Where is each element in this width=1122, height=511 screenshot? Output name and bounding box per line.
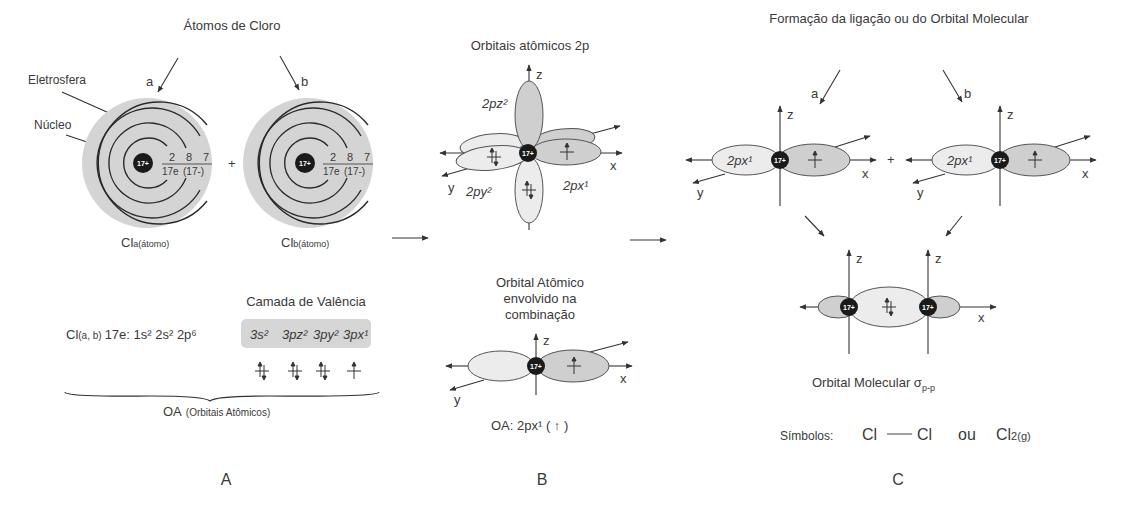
nucleus-charge: 17+ <box>843 304 855 311</box>
spin-up-icon <box>347 362 361 379</box>
shell-1-count: 2 <box>330 151 336 163</box>
symbol-cl2-gas: Cl2(g) <box>996 426 1031 443</box>
orbital-label: 2px¹ <box>946 153 973 168</box>
arrow-to-atom-b <box>280 56 299 90</box>
nucleus-charge: 17+ <box>774 157 786 164</box>
y-axis-label: y <box>697 185 704 200</box>
electrons-total: 17e <box>323 166 340 177</box>
shell-2-count: 8 <box>347 151 353 163</box>
atom-b-orbital: z x y 17+ 2px¹ <box>906 106 1096 206</box>
symbols-label: Símbolos: <box>780 429 833 443</box>
atoms-title: Átomos de Cloro <box>184 18 281 33</box>
electrons-charge: (17-) <box>344 166 365 177</box>
symbol-or: ou <box>958 426 976 443</box>
orbital-label: 2px¹ <box>726 153 753 168</box>
px-label: 2px¹ <box>562 178 589 193</box>
y-axis-label: y <box>448 180 455 195</box>
atom-a-letter: a <box>811 86 819 101</box>
cl-a-label: Cla(átomo) <box>121 235 169 250</box>
valence-3px: 3px¹ <box>343 327 369 342</box>
spin-pair-icon <box>255 362 269 380</box>
x-axis-label: x <box>1082 166 1089 181</box>
panel-label-a: A <box>221 471 232 488</box>
z-axis-label: z <box>856 251 863 266</box>
y-axis <box>442 168 470 176</box>
shell-3-count: 7 <box>364 151 370 163</box>
z-axis-label: z <box>1007 107 1014 122</box>
panel-b-title: Orbitais atômicos 2p <box>471 38 590 53</box>
x-axis-label: x <box>610 158 617 173</box>
atom-b-letter: b <box>964 86 971 101</box>
py-label: 2py² <box>465 184 492 199</box>
atom-a-orbital: z x y 17+ 2px¹ <box>686 106 876 206</box>
nucleus-charge: 17+ <box>530 363 542 370</box>
atom-b-letter: b <box>301 74 308 89</box>
panel-label-b: B <box>537 471 548 488</box>
valence-3pz: 3pz² <box>282 327 308 342</box>
valence-3s: 3s² <box>250 327 269 342</box>
y-axis-label: y <box>917 185 924 200</box>
molecular-orbital: z z x 17+ 17+ <box>800 250 996 354</box>
symbol-cl-1: Cl <box>862 426 877 443</box>
panel-b: Orbitais atômicos 2p z x y 17+ 2pz² 2py²… <box>440 38 632 488</box>
molecular-orbital-label: Orbital Molecular σp-p <box>812 375 935 393</box>
panel-label-c: C <box>892 471 904 488</box>
involved-orbital-line-2: envolvido na <box>504 291 578 306</box>
x-axis-label: x <box>620 371 627 386</box>
spin-pair-icon <box>288 362 302 380</box>
spin-pair-icon <box>316 362 330 380</box>
shell-3-count: 7 <box>203 151 209 163</box>
eletrosfera-label: Eletrosfera <box>28 73 86 87</box>
chlorine-atom-a: 17+ 2 8 7 17e (17-) <box>82 98 212 228</box>
z-axis-label: z <box>935 251 942 266</box>
nucleus-charge: 17+ <box>522 150 534 157</box>
nucleus-charge: 17+ <box>922 304 934 311</box>
z-axis-label: z <box>543 333 550 348</box>
chlorine-atom-b: 17+ 2 8 7 17e (17-) <box>243 98 373 228</box>
panel-c: Formação da ligação ou do Orbital Molecu… <box>686 11 1096 488</box>
electrons-charge: (17-) <box>183 166 204 177</box>
z-axis-label: z <box>787 107 794 122</box>
plus-sign: + <box>228 156 236 171</box>
px-lobe-left <box>468 351 534 381</box>
nucleus-charge: 17+ <box>994 157 1006 164</box>
panel-a: Átomos de Cloro a b Eletrosfera Núcleo 1… <box>28 18 379 488</box>
involved-orbital-line-3: combinação <box>505 307 575 322</box>
shell-1-count: 2 <box>169 151 175 163</box>
cl-b-label: Clb(átomo) <box>281 235 329 250</box>
chlorine-bonding-diagram: Átomos de Cloro a b Eletrosfera Núcleo 1… <box>0 0 1122 511</box>
panel-c-title: Formação da ligação ou do Orbital Molecu… <box>769 11 1029 26</box>
atom-a-letter: a <box>146 74 154 89</box>
involved-orbital-line-1: Orbital Atômico <box>496 275 584 290</box>
electron-configuration: Cl(a, b)17e: 1s² 2s² 2p⁶ <box>66 327 197 342</box>
spin-diagram <box>255 362 361 380</box>
plus-sign: + <box>887 152 895 167</box>
valence-3py: 3py² <box>313 327 339 342</box>
brace <box>65 392 379 401</box>
electrons-total: 17e <box>162 166 179 177</box>
x-axis-label: x <box>862 166 869 181</box>
symbol-cl-2: Cl <box>917 426 932 443</box>
nucleus-charge: 17+ <box>299 160 311 167</box>
nucleo-label: Núcleo <box>34 118 72 132</box>
valence-title: Camada de Valência <box>246 294 366 309</box>
nucleus-charge: 17+ <box>137 160 149 167</box>
y-axis-label: y <box>454 392 461 407</box>
shell-2-count: 8 <box>186 151 192 163</box>
oa-selected-orbital: OA: 2px¹ ( ↑ ) <box>491 418 568 433</box>
z-axis-label: z <box>536 67 543 82</box>
pz-label: 2pz² <box>481 96 508 111</box>
arrow-to-atom-a <box>158 58 178 92</box>
oa-label: OA(Orbitais Atômicos) <box>163 404 270 419</box>
pz-lobe-top <box>515 81 543 149</box>
x-axis-label: x <box>978 310 985 325</box>
